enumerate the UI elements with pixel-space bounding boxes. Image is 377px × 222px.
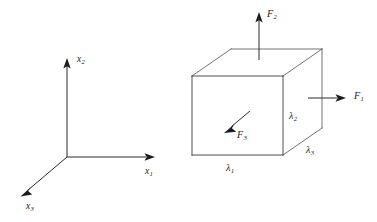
dimension-label-lambda1: λ1 xyxy=(226,163,234,173)
dimension-label-lambda2: λ2 xyxy=(289,111,297,121)
axis-x1 xyxy=(67,153,155,160)
force-label-f3-sub: 3 xyxy=(244,134,247,141)
dimension-label-lambda1-base: λ xyxy=(226,162,230,173)
dimension-label-lambda1-sub: 1 xyxy=(231,167,234,174)
figure-root: x2 x1 x3 F2 F1 F3 λ1 λ2 λ3 xyxy=(0,0,377,222)
force-label-f3: F3 xyxy=(237,130,247,140)
cube-edge-bottom-right-depth xyxy=(283,128,322,155)
dimension-label-lambda2-sub: 2 xyxy=(294,115,297,122)
axis-label-x1-base: x xyxy=(145,166,149,176)
force-label-f2-base: F xyxy=(267,8,273,19)
axis-label-x1: x1 xyxy=(145,167,153,177)
force-label-f3-base: F xyxy=(237,129,243,140)
force-label-f2: F2 xyxy=(267,9,277,19)
force-label-f2-sub: 2 xyxy=(274,13,277,20)
axis-label-x2-base: x xyxy=(77,54,81,64)
force-arrow-f2 xyxy=(255,12,262,60)
dimension-label-lambda2-base: λ xyxy=(289,110,293,121)
axis-label-x2: x2 xyxy=(77,55,85,65)
cube-edge-top-right-depth xyxy=(283,49,322,76)
axis-x3 xyxy=(21,157,68,197)
axis-label-x3: x3 xyxy=(26,202,34,212)
axis-triad xyxy=(21,58,156,197)
dimension-label-lambda3-sub: 3 xyxy=(311,149,314,156)
axis-x3-shaft xyxy=(28,157,68,191)
force-arrow-f1 xyxy=(308,94,346,101)
dimension-label-lambda3: λ3 xyxy=(306,145,314,155)
force-label-f1-base: F xyxy=(354,90,360,101)
axis-label-x2-sub: 2 xyxy=(82,58,85,65)
dimension-label-lambda3-base: λ xyxy=(306,144,310,155)
force-label-f1-sub: 1 xyxy=(361,95,364,102)
force-f3-shaft xyxy=(232,111,251,127)
axis-label-x3-sub: 3 xyxy=(31,205,34,212)
cube-wireframe xyxy=(192,49,322,155)
axis-x3-arrowhead xyxy=(21,187,33,196)
axis-label-x1-sub: 1 xyxy=(150,170,153,177)
cube-edge-top-left-depth xyxy=(192,49,231,76)
axis-x1-arrowhead xyxy=(145,153,156,160)
axis-x2 xyxy=(63,58,70,157)
axis-label-x3-base: x xyxy=(26,201,30,211)
force-label-f1: F1 xyxy=(354,91,364,101)
figure-canvas xyxy=(0,0,377,222)
force-f3-arrowhead xyxy=(224,124,236,133)
force-f1-arrowhead xyxy=(336,94,347,101)
